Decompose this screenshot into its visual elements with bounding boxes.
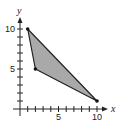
x-axis-label: x	[110, 103, 116, 114]
y-tick-label-10: 10	[5, 24, 15, 34]
vertex-1-10	[26, 27, 30, 31]
shaded-triangle	[28, 29, 97, 101]
vertex-2-5	[34, 67, 38, 71]
vertex-10-1	[95, 99, 99, 103]
y-axis-label: y	[16, 5, 22, 16]
y-axis-arrow-icon	[18, 17, 23, 23]
x-axis-arrow-icon	[102, 107, 108, 112]
x-tick-label-5: 5	[56, 112, 61, 122]
y-tick-label-5: 5	[10, 64, 15, 74]
coordinate-plane: 5 10 5 10 x y	[0, 0, 119, 123]
x-tick-label-10: 10	[92, 112, 102, 122]
